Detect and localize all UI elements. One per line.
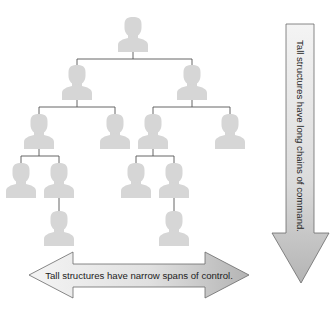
person-icon bbox=[24, 114, 54, 149]
span-of-control-label: Tall structures have narrow spans of con… bbox=[45, 270, 233, 281]
person-nodes bbox=[6, 17, 245, 246]
person-icon bbox=[159, 211, 189, 246]
person-icon bbox=[44, 163, 74, 198]
chain-of-command-arrow: Tall structures have long chains of comm… bbox=[272, 24, 329, 283]
org-chart-diagram: Tall structures have long chains of comm… bbox=[0, 0, 336, 312]
person-icon bbox=[44, 211, 74, 246]
span-of-control-arrow: Tall structures have narrow spans of con… bbox=[29, 252, 249, 298]
person-icon bbox=[121, 163, 151, 198]
person-icon bbox=[118, 17, 148, 52]
person-icon bbox=[100, 114, 130, 149]
person-icon bbox=[62, 65, 92, 100]
chain-of-command-label: Tall structures have long chains of comm… bbox=[295, 40, 306, 232]
person-icon bbox=[159, 163, 189, 198]
person-icon bbox=[6, 163, 36, 198]
person-icon bbox=[138, 114, 168, 149]
person-icon bbox=[215, 114, 245, 149]
person-icon bbox=[177, 65, 207, 100]
